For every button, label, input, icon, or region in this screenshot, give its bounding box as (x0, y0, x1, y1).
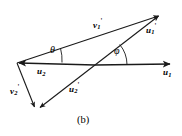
vector-label-v1-prime-mark: ' (101, 17, 102, 26)
vector-label-v2-prime: v2' (10, 84, 19, 97)
vector-diagram-canvas (0, 0, 182, 136)
vector-label-u1-prime-sub: 1 (151, 28, 154, 35)
vector-label-u2-sub: 2 (42, 70, 45, 77)
vector-label-u1-prime-mark: ' (155, 22, 156, 31)
vector-u2-line (19, 63, 95, 65)
vector-label-u2-prime: u2' (69, 82, 79, 95)
angle-label-theta: θ (50, 45, 55, 55)
figure-caption: (b) (77, 115, 89, 126)
vector-diagram-figure: v1' u1' u1 u2 u2' v2' θ φ (b) (0, 0, 182, 136)
vector-v1-prime-line (17, 16, 159, 63)
vector-label-u1-sub: 1 (168, 71, 171, 78)
vector-label-v2-prime-sub: 2 (14, 89, 17, 96)
vector-label-v1-prime: v1' (93, 18, 102, 31)
vector-label-u1: u1 (163, 68, 171, 78)
vector-label-v2-prime-mark: ' (18, 83, 19, 92)
vector-u1-line (95, 64, 170, 65)
vector-label-u2-prime-mark: ' (78, 81, 79, 90)
angle-label-phi: φ (114, 46, 120, 56)
angle-theta-arc (61, 48, 63, 62)
vector-u2-prime-line (40, 65, 95, 108)
vector-label-u1-prime: u1' (146, 23, 156, 36)
vector-v2-prime-line (17, 63, 35, 107)
angle-phi-arc (120, 45, 127, 65)
vector-label-v1-prime-sub: 1 (97, 23, 100, 30)
vector-label-u2-prime-sub: 2 (74, 87, 77, 94)
vector-label-u2: u2 (37, 67, 45, 77)
